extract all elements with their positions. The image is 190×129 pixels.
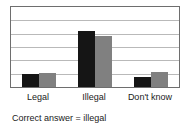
- bar-group: [78, 7, 113, 87]
- bar-series-b-1: [95, 36, 112, 87]
- category-label-1: Illegal: [66, 91, 122, 103]
- bars-layer: [11, 7, 179, 87]
- bar-group: [22, 7, 57, 87]
- bar-series-a-2: [134, 77, 151, 87]
- bar-series-a-1: [78, 31, 95, 87]
- chart-caption: Correct answer = illegal: [12, 112, 106, 124]
- category-label-2: Don't know: [122, 91, 178, 103]
- category-label-0: Legal: [10, 91, 66, 103]
- bar-series-a-0: [22, 74, 39, 87]
- bar-series-b-2: [151, 72, 168, 87]
- bar-chart-figure: LegalIllegalDon't know Correct answer = …: [0, 0, 190, 129]
- bar-group: [134, 7, 169, 87]
- x-axis-category-labels: LegalIllegalDon't know: [10, 91, 180, 105]
- plot-area: [10, 6, 180, 88]
- bar-series-b-0: [39, 73, 56, 87]
